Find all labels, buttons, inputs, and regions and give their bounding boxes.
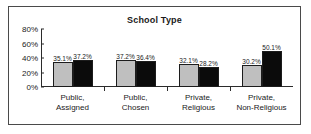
bar-value-label: 28.2% [199, 60, 217, 67]
x-axis-category-label: Public, Assigned [41, 93, 104, 112]
bar-group: 32.1%28.2% [167, 29, 230, 87]
bar-value-label: 37.2% [73, 53, 91, 60]
bar-value-label: 32.1% [179, 57, 197, 64]
bar-value-label: 35.1% [53, 55, 71, 62]
bar-pair: 30.2%50.1% [230, 29, 293, 87]
bar[interactable]: 30.2% [242, 65, 262, 87]
bar[interactable]: 32.1% [179, 64, 199, 87]
bar-pair: 35.1%37.2% [41, 29, 104, 87]
bar[interactable]: 35.1% [53, 62, 73, 87]
y-axis-tick-label: 20% [22, 68, 41, 77]
bar-pair: 32.1%28.2% [167, 29, 230, 87]
x-axis-category-labels: Public, AssignedPublic, ChosenPrivate, R… [41, 93, 293, 112]
y-axis-tick-label: 0% [26, 83, 41, 92]
y-axis-tick-label: 60% [22, 39, 41, 48]
category-separator-tick [167, 87, 168, 91]
bar-value-label: 36.4% [136, 54, 154, 61]
chart-title: School Type [9, 15, 300, 25]
bar-group: 37.2%36.4% [104, 29, 167, 87]
bar[interactable]: 37.2% [116, 60, 136, 87]
plot-area: 0%20%40%60%80% 35.1%37.2%37.2%36.4%32.1%… [41, 29, 293, 87]
bar-pair: 37.2%36.4% [104, 29, 167, 87]
bar-groups: 35.1%37.2%37.2%36.4%32.1%28.2%30.2%50.1% [41, 29, 293, 87]
bar-value-label: 37.2% [116, 53, 134, 60]
y-axis-tick-label: 80% [22, 25, 41, 34]
bar-group: 30.2%50.1% [230, 29, 293, 87]
category-separator-tick [104, 87, 105, 91]
x-axis-category-label: Public, Chosen [104, 93, 167, 112]
bar[interactable]: 50.1% [262, 51, 282, 87]
bar[interactable]: 37.2% [73, 60, 93, 87]
bar-value-label: 50.1% [262, 44, 280, 51]
bar[interactable]: 36.4% [136, 61, 156, 87]
bar-value-label: 30.2% [242, 58, 260, 65]
x-axis-category-label: Private, Non-Religious [230, 93, 293, 112]
category-separator-tick [230, 87, 231, 91]
bar-group: 35.1%37.2% [41, 29, 104, 87]
x-axis-category-label: Private, Religious [167, 93, 230, 112]
chart-figure: School Type 0%20%40%60%80% 35.1%37.2%37.… [8, 6, 301, 125]
y-axis-tick-label: 40% [22, 54, 41, 63]
bar[interactable]: 28.2% [199, 67, 219, 87]
